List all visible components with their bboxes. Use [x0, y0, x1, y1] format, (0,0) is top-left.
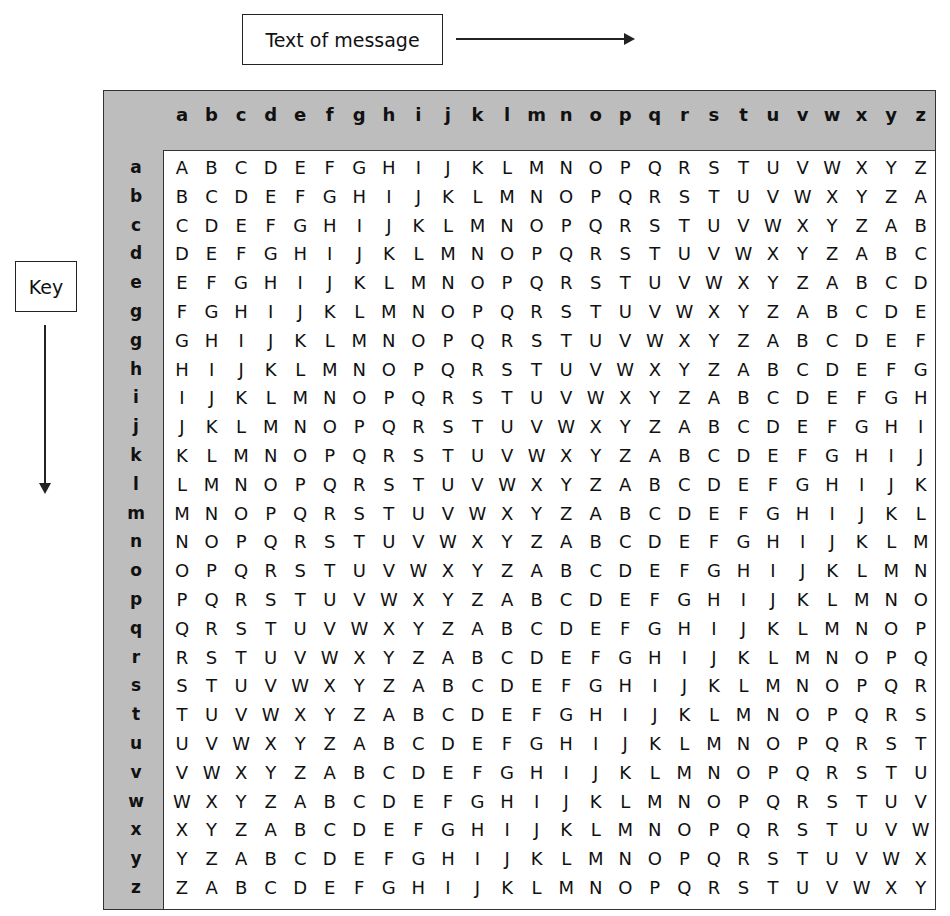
table-cell: J	[702, 647, 726, 668]
table-cell: H	[259, 272, 283, 293]
table-cell: M	[820, 618, 844, 639]
table-cell: L	[347, 301, 371, 322]
row-header: h	[124, 359, 148, 379]
table-cell: I	[702, 618, 726, 639]
column-header: y	[879, 104, 903, 125]
table-cell: F	[850, 387, 874, 408]
table-cell: C	[761, 387, 785, 408]
table-cell: T	[702, 186, 726, 207]
table-cell: F	[318, 157, 342, 178]
table-cell: F	[406, 819, 430, 840]
table-cell: E	[377, 819, 401, 840]
table-cell: M	[288, 387, 312, 408]
table-cell: E	[229, 215, 253, 236]
table-cell: G	[672, 589, 696, 610]
table-cell: W	[731, 243, 755, 264]
table-cell: Q	[731, 819, 755, 840]
table-cell: K	[200, 416, 224, 437]
table-cell: H	[318, 215, 342, 236]
table-cell: C	[731, 416, 755, 437]
table-cell: Q	[436, 359, 460, 380]
table-cell: R	[879, 704, 903, 725]
table-cell: C	[436, 704, 460, 725]
table-cell: C	[200, 186, 224, 207]
row-header: z	[124, 877, 148, 897]
table-cell: D	[731, 445, 755, 466]
text-of-message-text: Text of message	[265, 29, 419, 51]
table-cell: Z	[554, 503, 578, 524]
table-cell: Y	[554, 474, 578, 495]
table-cell: I	[525, 791, 549, 812]
table-cell: Q	[672, 877, 696, 898]
table-cell: H	[731, 560, 755, 581]
table-cell: N	[643, 819, 667, 840]
table-cell: G	[288, 215, 312, 236]
table-cell: K	[347, 272, 371, 293]
table-cell: X	[259, 733, 283, 754]
table-cell: S	[879, 733, 903, 754]
table-cell: X	[643, 359, 667, 380]
table-cell: O	[466, 272, 490, 293]
table-cell: U	[525, 387, 549, 408]
table-cell: N	[259, 445, 283, 466]
table-cell: X	[406, 589, 430, 610]
table-cell: L	[525, 877, 549, 898]
table-cell: P	[643, 877, 667, 898]
table-cell: I	[200, 359, 224, 380]
table-cell: L	[850, 560, 874, 581]
table-cell: I	[406, 157, 430, 178]
column-header: p	[613, 104, 637, 125]
table-cell: Q	[879, 675, 903, 696]
table-cell: Y	[731, 301, 755, 322]
table-cell: Y	[672, 359, 696, 380]
table-cell: Q	[702, 848, 726, 869]
table-cell: V	[347, 589, 371, 610]
table-cell: S	[731, 877, 755, 898]
table-cell: V	[584, 359, 608, 380]
table-cell: Y	[406, 618, 430, 639]
table-cell: H	[229, 301, 253, 322]
table-cell: R	[170, 647, 194, 668]
table-cell: O	[377, 359, 401, 380]
row-header: k	[124, 445, 148, 465]
column-header: h	[377, 104, 401, 125]
table-cell: J	[584, 762, 608, 783]
table-cell: C	[347, 791, 371, 812]
table-cell: T	[170, 704, 194, 725]
table-cell: U	[820, 848, 844, 869]
table-cell: T	[791, 848, 815, 869]
row-header: y	[124, 848, 148, 868]
table-cell: O	[170, 560, 194, 581]
table-cell: U	[613, 301, 637, 322]
table-cell: V	[613, 330, 637, 351]
table-cell: Z	[288, 762, 312, 783]
table-cell: U	[436, 474, 460, 495]
table-cell: T	[584, 301, 608, 322]
row-header: e	[124, 272, 148, 292]
table-cell: R	[525, 301, 549, 322]
row-header: q	[124, 618, 148, 638]
table-cell: S	[820, 791, 844, 812]
table-cell: J	[259, 330, 283, 351]
table-cell: P	[761, 762, 785, 783]
table-cell: K	[525, 848, 549, 869]
column-header: t	[731, 104, 755, 125]
table-cell: X	[909, 848, 933, 869]
table-cell: W	[259, 704, 283, 725]
table-cell: A	[850, 243, 874, 264]
table-cell: V	[672, 272, 696, 293]
table-cell: E	[850, 359, 874, 380]
table-cell: Z	[436, 618, 460, 639]
table-cell: J	[731, 618, 755, 639]
table-cell: C	[820, 330, 844, 351]
table-cell: X	[229, 762, 253, 783]
table-cell: R	[731, 848, 755, 869]
table-cell: T	[377, 503, 401, 524]
table-cell: H	[200, 330, 224, 351]
table-cell: U	[318, 589, 342, 610]
table-cell: F	[377, 848, 401, 869]
table-cell: G	[761, 503, 785, 524]
table-cell: V	[318, 618, 342, 639]
table-cell: O	[850, 647, 874, 668]
table-cell: N	[229, 474, 253, 495]
